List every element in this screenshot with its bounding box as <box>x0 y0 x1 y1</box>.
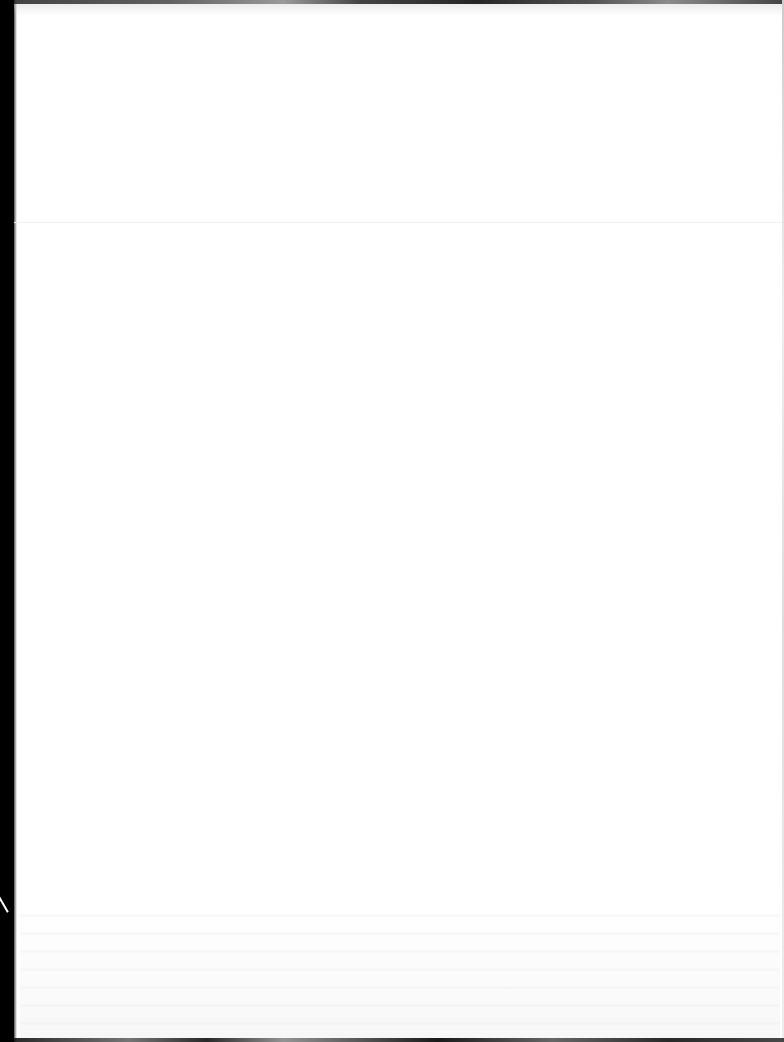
scan-top-haze <box>14 4 784 16</box>
page-fold-line <box>14 222 784 223</box>
scanned-page <box>0 0 784 1042</box>
scan-bottom-shadow <box>14 1038 784 1042</box>
scan-left-border <box>0 0 14 1042</box>
bleed-through-text <box>20 900 780 1038</box>
